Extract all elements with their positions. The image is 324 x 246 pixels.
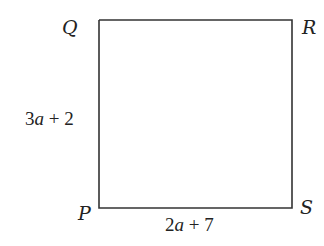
vertex-label-s: S: [300, 196, 313, 218]
square-diagram: Q R P S 3a + 2 2a + 7: [0, 0, 324, 246]
vertex-label-r: R: [301, 16, 316, 38]
square-outline: [99, 20, 292, 208]
vertex-label-q: Q: [62, 16, 78, 38]
side-label-left: 3a + 2: [25, 108, 74, 129]
vertex-label-p: P: [77, 202, 92, 224]
side-label-bottom: 2a + 7: [165, 214, 214, 235]
